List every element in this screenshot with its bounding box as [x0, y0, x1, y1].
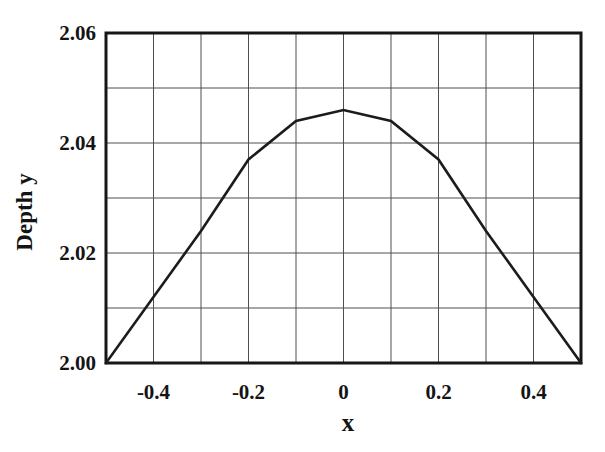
chart-canvas: 2.002.022.042.06-0.4-0.200.20.4 Depth y … [0, 0, 605, 452]
x-tick-label: 0.4 [520, 380, 547, 404]
y-tick-label: 2.00 [59, 351, 96, 375]
x-tick-label: -0.4 [137, 380, 171, 404]
y-axis-label: Depth y [12, 173, 37, 251]
y-tick-label: 2.02 [59, 241, 96, 265]
x-tick-label: 0 [338, 380, 349, 404]
gridlines [106, 33, 581, 363]
depth-profile-chart: 2.002.022.042.06-0.4-0.200.20.4 Depth y … [0, 0, 605, 452]
x-tick-label: 0.2 [425, 380, 451, 404]
x-tick-label: -0.2 [232, 380, 265, 404]
y-tick-label: 2.06 [59, 21, 96, 45]
y-tick-label: 2.04 [59, 131, 96, 155]
x-axis-label: x [342, 409, 355, 436]
